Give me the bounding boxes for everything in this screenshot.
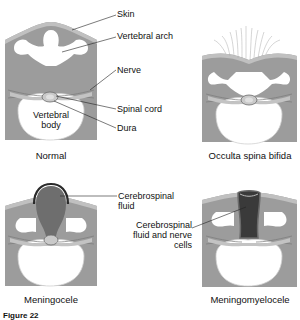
panel-meningocele [5, 184, 97, 286]
label-skin: Skin [117, 9, 135, 19]
caption-meningocele: Meningocele [5, 294, 97, 305]
panel-meningomyelocele [202, 191, 297, 287]
label-spinal-cord: Spinal cord [117, 104, 162, 114]
label-vertebral-body: Vertebral body [30, 110, 72, 130]
panel-occulta [202, 26, 297, 144]
label-csf: Cerebrospinal fluid [118, 191, 178, 211]
caption-normal: Normal [5, 150, 97, 161]
label-vertebral-arch: Vertebral arch [117, 31, 173, 41]
caption-meningomyelocele: Meningomyelocele [200, 294, 300, 305]
figure-label: Figure 22 [3, 311, 39, 320]
caption-occulta: Occulta spina bifida [200, 150, 300, 161]
label-csf-nerve-cells: Cerebrospinal fluid and nerve cells [124, 220, 192, 250]
label-nerve: Nerve [117, 65, 141, 75]
label-dura: Dura [117, 123, 137, 133]
